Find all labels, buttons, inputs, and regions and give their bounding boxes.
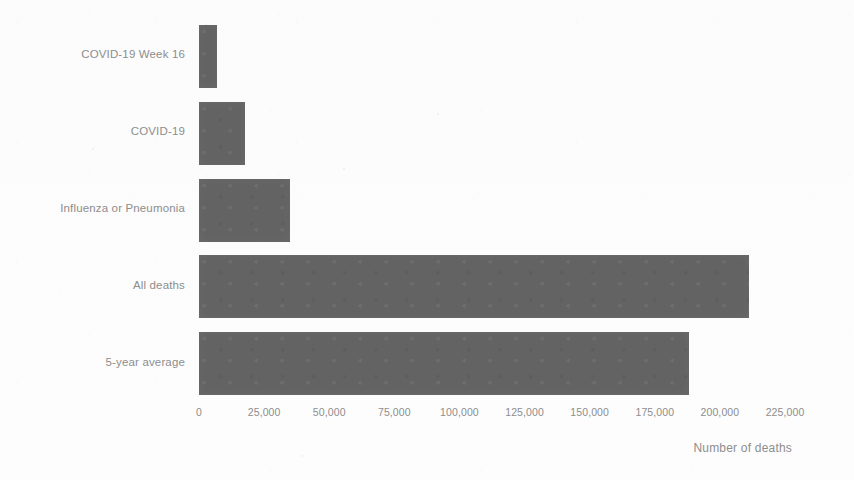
scan-speck [437, 113, 439, 115]
x-tick-8: 200,000 [701, 406, 740, 418]
bar-covid-19-week-16[interactable] [199, 25, 217, 88]
y-axis-label-2: Influenza or Pneumonia [0, 202, 185, 214]
bar-covid-19[interactable] [199, 102, 245, 165]
plot-area: COVID-19 Week 16COVID-19Influenza or Pne… [199, 18, 785, 402]
x-tick-0: 0 [196, 406, 202, 418]
y-axis-label-4: 5-year average [0, 356, 185, 368]
horizontal-bar-chart: COVID-19 Week 16COVID-19Influenza or Pne… [0, 0, 854, 480]
x-tick-4: 100,000 [440, 406, 479, 418]
bar-influenza-or-pneumonia[interactable] [199, 179, 290, 242]
y-axis-label-0: COVID-19 Week 16 [0, 48, 185, 60]
y-axis-label-1: COVID-19 [0, 125, 185, 137]
x-tick-3: 75,000 [378, 406, 411, 418]
x-tick-6: 150,000 [570, 406, 609, 418]
bar-row: Influenza or Pneumonia [199, 179, 785, 242]
scan-speck [343, 167, 345, 170]
chart-page: COVID-19 Week 16COVID-19Influenza or Pne… [0, 0, 854, 480]
bar-row: COVID-19 [199, 102, 785, 165]
x-axis-title: Number of deaths [0, 441, 792, 455]
x-tick-1: 25,000 [248, 406, 281, 418]
x-axis-line [199, 402, 785, 403]
bar-5-year-average[interactable] [199, 332, 689, 395]
scan-speck [92, 148, 94, 150]
bar-row: 5-year average [199, 332, 785, 395]
bar-row: All deaths [199, 255, 785, 318]
x-tick-7: 175,000 [635, 406, 674, 418]
bar-all-deaths[interactable] [199, 255, 749, 318]
bar-row: COVID-19 Week 16 [199, 25, 785, 88]
y-axis-label-3: All deaths [0, 279, 185, 291]
scan-speck [205, 24, 207, 26]
x-tick-5: 125,000 [505, 406, 544, 418]
x-tick-2: 50,000 [313, 406, 346, 418]
x-tick-9: 225,000 [766, 406, 805, 418]
scan-speck [301, 455, 303, 457]
